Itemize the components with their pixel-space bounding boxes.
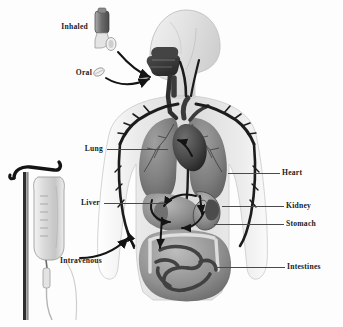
iv-hook [14,162,60,178]
drip-chamber [43,268,50,288]
label-stomach: Stomach [286,220,316,228]
label-inhaled: Inhaled [61,23,88,31]
anatomy-diagram: Inhaled Oral Intravenous Lung Liver Hear… [0,0,343,327]
leader-lung [107,149,168,150]
arrow-arm-vein [128,232,134,248]
label-lung: Lung [85,145,103,153]
nasal-cavity [151,47,178,58]
arrow-oral-to-mouth [106,78,149,84]
label-intestines: Intestines [287,263,321,271]
arrow-inhaled-to-mouth [118,52,150,77]
label-oral: Oral [76,69,92,77]
pill-icon [92,66,105,78]
iv-bag-icon [10,162,77,320]
abdominal-organs [139,192,231,302]
leader-kidney [222,206,284,207]
leader-heart [228,173,280,174]
label-liver: Liver [81,199,100,207]
body-illustration [0,0,343,327]
iv-fluid-bag [34,177,65,260]
label-kidney: Kidney [286,202,311,210]
label-intravenous: Intravenous [60,257,102,265]
oral-cavity [147,55,181,76]
leader-stomach [214,224,284,225]
inhaler-icon [95,8,116,51]
leader-intestines [214,267,285,268]
leader-liver [104,203,166,204]
label-heart: Heart [282,169,302,177]
